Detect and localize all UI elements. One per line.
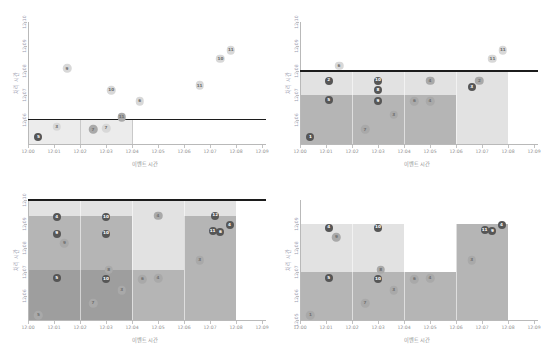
x-tick xyxy=(262,321,263,324)
data-bubble: 10 xyxy=(102,230,110,238)
data-bubble: 8 xyxy=(374,86,382,94)
x-axis-title: 이벤트 시간 xyxy=(132,160,159,167)
x-tick-label: 12:04 xyxy=(397,149,410,154)
x-tick xyxy=(28,145,29,148)
data-bubble: 9 xyxy=(60,239,69,248)
x-tick-label: 12:05 xyxy=(423,149,436,154)
data-bubble: 6 xyxy=(216,228,224,236)
data-bubble: 4 xyxy=(325,224,333,232)
data-bubble: 6 xyxy=(410,97,419,106)
data-bubble: 11 xyxy=(117,113,126,122)
x-tick xyxy=(210,145,211,148)
y-tick-label: 12:05 xyxy=(294,313,299,326)
data-bubble: 9 xyxy=(63,64,72,73)
data-bubble: 5 xyxy=(53,274,61,282)
x-tick xyxy=(326,145,327,148)
y-tick-label: 12:08 xyxy=(22,241,27,254)
x-tick xyxy=(482,145,483,148)
window-separator xyxy=(80,200,81,320)
y-axis-line xyxy=(300,200,301,322)
data-bubble: 10 xyxy=(374,224,382,232)
panel-top-right: 12:0012:0112:0212:0312:0412:0512:0612:07… xyxy=(272,0,544,180)
x-tick xyxy=(352,321,353,324)
x-tick-label: 12:06 xyxy=(449,325,462,330)
data-bubble: 4 xyxy=(426,97,435,106)
x-tick-label: 12:09 xyxy=(527,325,540,330)
window-separator xyxy=(456,71,457,144)
y-axis-title: 처리 시간 xyxy=(12,249,19,271)
x-tick-label: 12:07 xyxy=(203,325,216,330)
data-bubble: 1 xyxy=(306,311,315,320)
y-tick-label: 12:06 xyxy=(22,113,27,126)
data-bubble: 9 xyxy=(53,230,61,238)
x-tick xyxy=(482,321,483,324)
threshold-line xyxy=(300,70,538,72)
x-tick-label: 12:03 xyxy=(99,149,112,154)
window-separator xyxy=(456,224,457,320)
x-tick xyxy=(132,321,133,324)
x-tick-label: 12:07 xyxy=(203,149,216,154)
x-tick-label: 12:04 xyxy=(125,149,138,154)
x-axis-line xyxy=(300,144,538,145)
data-bubble: 5 xyxy=(325,96,333,104)
data-bubble: 7 xyxy=(361,299,370,308)
data-bubble: 8 xyxy=(104,265,113,274)
x-tick xyxy=(210,321,211,324)
x-tick-label: 12:08 xyxy=(501,325,514,330)
x-tick xyxy=(158,145,159,148)
x-tick-label: 12:00 xyxy=(293,149,306,154)
x-tick xyxy=(158,321,159,324)
x-tick xyxy=(54,145,55,148)
x-tick xyxy=(106,321,107,324)
data-bubble: 3 xyxy=(389,286,398,295)
data-bubble: 11 xyxy=(195,81,204,90)
y-tick-label: 12:10 xyxy=(22,15,27,28)
data-bubble: 10 xyxy=(374,275,382,283)
x-tick-label: 12:01 xyxy=(47,325,60,330)
x-tick xyxy=(28,321,29,324)
x-axis-title: 이벤트 시간 xyxy=(404,336,431,343)
window-separator xyxy=(404,71,405,144)
x-tick-label: 12:02 xyxy=(345,149,358,154)
data-bubble: 6 xyxy=(410,275,419,284)
y-tick-label: 12:08 xyxy=(22,64,27,77)
data-bubble: 10 xyxy=(374,77,382,85)
x-tick xyxy=(404,321,405,324)
x-tick xyxy=(132,145,133,148)
data-bubble: 11 xyxy=(227,46,236,55)
x-tick xyxy=(430,321,431,324)
window-separator xyxy=(352,71,353,144)
x-tick-label: 12:05 xyxy=(151,149,164,154)
x-tick xyxy=(184,145,185,148)
data-bubble: 4 xyxy=(154,274,163,283)
data-bubble: 9 xyxy=(488,227,496,235)
data-bubble: 3 xyxy=(389,110,398,119)
x-tick xyxy=(534,321,535,324)
x-tick-label: 12:09 xyxy=(255,325,268,330)
window-separator xyxy=(80,120,81,144)
x-tick xyxy=(184,321,185,324)
y-axis-title: 처리 시간 xyxy=(284,72,291,94)
x-tick-label: 12:07 xyxy=(475,149,488,154)
x-tick xyxy=(456,145,457,148)
window-top xyxy=(184,200,236,216)
x-tick xyxy=(352,145,353,148)
data-bubble: 10 xyxy=(102,213,110,221)
x-tick-label: 12:05 xyxy=(151,325,164,330)
data-bubble: 4 xyxy=(154,211,163,220)
x-tick-label: 12:07 xyxy=(475,325,488,330)
y-axis-title: 처리 시간 xyxy=(12,72,19,94)
x-tick xyxy=(456,321,457,324)
data-bubble: 5 xyxy=(34,133,42,141)
data-bubble: 3 xyxy=(52,123,61,132)
x-tick xyxy=(262,145,263,148)
data-bubble: 3 xyxy=(195,256,204,265)
data-bubble: 4 xyxy=(226,221,234,229)
x-tick-label: 12:06 xyxy=(177,325,190,330)
window-separator xyxy=(184,200,185,320)
data-bubble: 11 xyxy=(209,227,217,235)
x-tick-label: 12:05 xyxy=(423,325,436,330)
y-tick-label: 12:07 xyxy=(22,265,27,278)
data-bubble: 8 xyxy=(376,265,385,274)
data-bubble: 6 xyxy=(335,62,344,71)
